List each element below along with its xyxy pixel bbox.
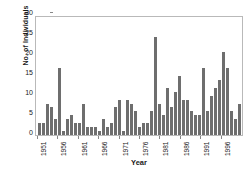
x-axis-tick-label: 1976: [142, 142, 149, 156]
x-axis-tick-label: 1996: [224, 142, 231, 156]
x-axis-tick-label: 1961: [81, 142, 88, 156]
x-axis-tick-label: 1991: [203, 142, 210, 156]
plot-area: [35, 16, 243, 136]
x-axis-tick-label: 1986: [183, 142, 190, 156]
x-axis-tick-label: 1956: [60, 142, 67, 156]
y-axis-tick-label: 25: [17, 29, 33, 36]
bar-chart-figure: No. of Individuals 051015202530 19511956…: [0, 0, 250, 172]
y-axis-tick-label: 0: [17, 129, 33, 136]
x-axis-tick-label: 1966: [101, 142, 108, 156]
y-axis-tick-label: 20: [17, 49, 33, 56]
y-axis-tick-label: 15: [17, 69, 33, 76]
x-axis-tick-label: 1971: [122, 142, 129, 156]
y-axis-tick-label: 10: [17, 89, 33, 96]
bar-series: [36, 17, 242, 135]
bar: [117, 100, 121, 135]
y-axis-tick-mark: [50, 12, 53, 13]
x-axis-tick-label: 1951: [40, 142, 47, 156]
y-axis-tick-label: 5: [17, 109, 33, 116]
y-axis-tick-labels: 051015202530: [17, 12, 33, 137]
bar: [237, 104, 241, 135]
y-axis-tick-label: 30: [17, 9, 33, 16]
x-axis-title: Year: [35, 158, 243, 167]
x-axis-tick-label: 1981: [162, 142, 169, 156]
bar: [57, 68, 61, 135]
